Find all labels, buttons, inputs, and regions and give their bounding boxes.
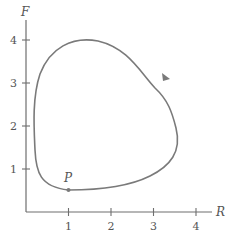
x-tick-label-2: 2 xyxy=(108,220,115,233)
y-tick-label-2: 2 xyxy=(10,120,17,133)
trajectory-curve xyxy=(34,40,178,190)
y-tick-label-3: 3 xyxy=(10,77,17,90)
point-p-label: P xyxy=(63,171,73,185)
point-p-marker xyxy=(67,188,71,192)
y-tick-label-4: 4 xyxy=(10,34,17,47)
y-axis-label: F xyxy=(20,5,30,19)
direction-arrow-icon xyxy=(162,73,170,81)
x-tick-label-3: 3 xyxy=(150,220,157,233)
y-tick-label-1: 1 xyxy=(10,163,17,176)
x-tick-label-1: 1 xyxy=(65,220,72,233)
phase-plot: 1 2 3 4 1 2 3 4 R F P xyxy=(0,0,230,248)
x-axis-label: R xyxy=(215,205,225,219)
x-tick-label-4: 4 xyxy=(193,220,200,233)
